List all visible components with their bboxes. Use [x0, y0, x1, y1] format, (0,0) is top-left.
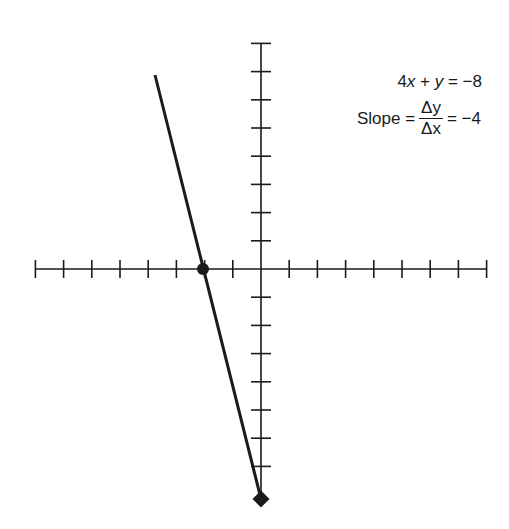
equation-label: 4x + y = −8: [397, 72, 482, 92]
x-intercept-point: [197, 263, 209, 275]
slope-prefix: Slope =: [357, 109, 415, 129]
slope-numerator: Δy: [419, 98, 443, 119]
equation-line: [155, 75, 261, 499]
slope-denominator: Δx: [421, 119, 441, 139]
slope-label: Slope = Δy Δx = −4: [357, 98, 481, 139]
y-intercept-point: [253, 491, 270, 508]
slope-fraction: Δy Δx: [419, 98, 443, 139]
slope-value: = −4: [447, 109, 481, 129]
